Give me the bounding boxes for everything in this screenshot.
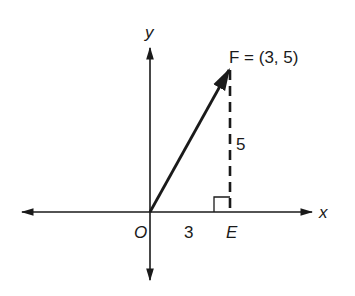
- point-e-label: E: [226, 223, 238, 242]
- x-axis-label: x: [318, 203, 328, 222]
- right-angle-marker: [214, 197, 230, 212]
- vector-of: [150, 70, 229, 212]
- y-component-label: 5: [236, 135, 245, 154]
- x-component-label: 3: [184, 223, 193, 242]
- origin-label: O: [134, 223, 147, 242]
- vector-diagram: y x O 3 E 5 F = (3, 5): [0, 0, 355, 296]
- y-axis-label: y: [144, 23, 155, 42]
- point-f-label: F = (3, 5): [229, 48, 298, 67]
